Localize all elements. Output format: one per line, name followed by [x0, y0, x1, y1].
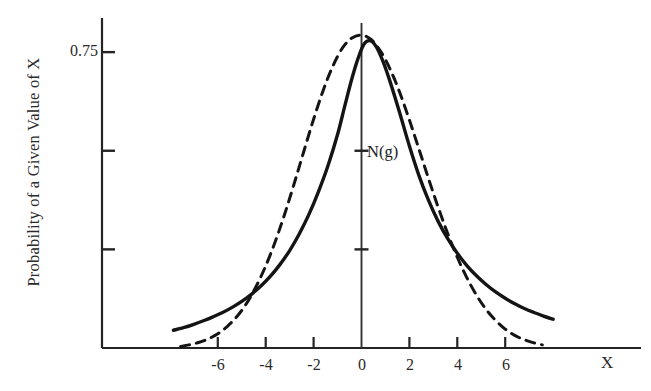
axes-group — [102, 18, 641, 348]
series-n-g — [173, 41, 553, 331]
plot-canvas — [0, 0, 651, 391]
figure-chart: Probability of a Given Value of X 0.75 -… — [0, 0, 651, 391]
y-axis-ticks — [102, 52, 115, 249]
curve-group — [173, 35, 553, 346]
